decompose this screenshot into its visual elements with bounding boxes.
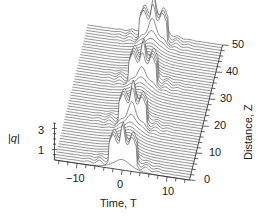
z-tick-label: 1 [38,145,44,156]
x-tick-label: 10 [162,186,174,197]
y-axis-label-text: Distance, Z [242,104,254,160]
x-axis-label: Time, T [100,198,137,209]
x-tick-label: 0 [117,179,123,190]
z-axis-label: |q| [8,133,20,144]
y-tick-label: 50 [232,39,244,50]
x-tick-label: −10 [66,173,85,184]
y-tick-label: 40 [226,66,238,77]
y-tick-label: 10 [209,147,221,158]
z-axis-bar: | [17,132,20,144]
y-tick-label: 30 [220,93,232,104]
y-axis-label: Distance, Z [242,104,254,160]
y-tick-label: 0 [204,174,210,185]
z-tick-label: 3 [38,125,44,136]
y-tick-label: 20 [214,120,226,131]
waterfall-plot [0,0,270,220]
